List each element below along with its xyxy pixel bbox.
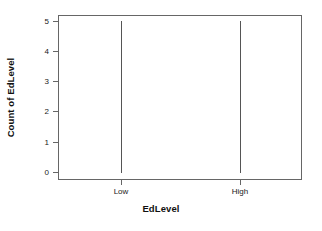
- y-axis-title-container: Count of EdLevel: [0, 0, 22, 195]
- x-tick-label-low: Low: [114, 187, 129, 197]
- y-tick-label-3: 3: [45, 77, 49, 86]
- data-line-low: [121, 21, 122, 173]
- plot-area: [58, 15, 302, 180]
- data-line-high: [240, 21, 241, 173]
- y-tick-label-5: 5: [45, 17, 49, 26]
- y-tick-label-2: 2: [45, 107, 49, 116]
- x-tick-mark-low: [121, 180, 122, 185]
- x-tick-mark-high: [240, 180, 241, 185]
- chart-figure: Count of EdLevel 5 4 3 2 1 0 Low High Ed…: [0, 0, 322, 231]
- y-tick-label-4: 4: [45, 47, 49, 56]
- x-axis-title: EdLevel: [0, 203, 322, 214]
- y-axis-title: Count of EdLevel: [6, 58, 17, 138]
- y-tick-label-0: 0: [45, 168, 49, 177]
- y-tick-label-1: 1: [45, 138, 49, 147]
- x-tick-label-high: High: [232, 187, 248, 197]
